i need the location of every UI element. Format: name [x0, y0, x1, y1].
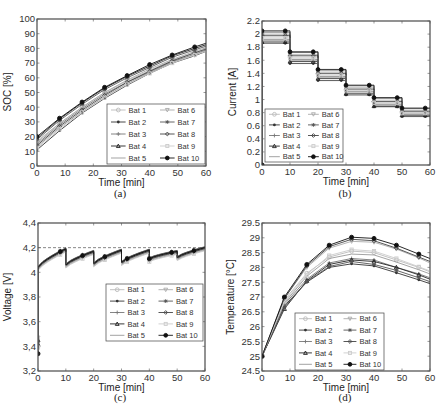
marker-filled-circle-icon [80, 100, 84, 104]
y-tick-label: 4,2 [23, 242, 36, 253]
legend-label: Bat 5 [127, 331, 145, 340]
marker-filled-circle-icon [312, 155, 316, 159]
marker-filled-circle-icon [125, 74, 129, 78]
marker-filled-circle-icon [288, 50, 292, 54]
y-tick-label: 0 [30, 160, 35, 171]
x-tick-label: 0 [259, 372, 264, 383]
marker-filled-circle-icon [316, 68, 320, 72]
x-tick-label: 50 [173, 167, 184, 178]
legend-label: Bat 3 [315, 337, 333, 346]
legend: Bat 1Bat 2Bat 3Bat 4Bat 5Bat 6Bat 7Bat 8… [265, 109, 344, 162]
legend-label: Bat 4 [127, 320, 145, 329]
legend-label: Bat 1 [127, 285, 145, 294]
y-tick-label: 2.2 [247, 15, 260, 26]
y-tick-label: 40 [24, 102, 35, 113]
legend-label: Bat 8 [359, 337, 377, 346]
y-tick-label: 20 [24, 131, 35, 142]
x-tick-label: 10 [60, 167, 71, 178]
marker-filled-circle-icon [193, 45, 197, 49]
legend-label: Bat 5 [283, 152, 301, 161]
y-axis-label: Voltage [V] [2, 273, 13, 322]
marker-dot-icon [304, 329, 307, 332]
marker-filled-circle-icon [344, 83, 348, 87]
y-tick-label: 90 [24, 28, 35, 39]
y-tick-label: 30 [24, 116, 35, 127]
marker-filled-circle-icon [58, 250, 62, 254]
marker-filled-circle-icon [170, 251, 174, 255]
x-tick-label: 40 [144, 372, 155, 383]
marker-filled-circle-icon [164, 333, 168, 337]
x-tick-label: 50 [172, 372, 183, 383]
y-tick-label: 0.2 [247, 146, 260, 157]
legend-label: Bat 4 [283, 142, 301, 151]
legend-label: Bat 8 [322, 131, 340, 140]
y-tick-label: 1.2 [247, 81, 260, 92]
marker-filled-circle-icon [395, 96, 399, 100]
y-tick-label: 100 [19, 13, 35, 24]
chart-a-soc: 01020304050600102030405060708090100Time … [2, 13, 211, 200]
x-tick-label: 20 [88, 167, 99, 178]
y-tick-label: 1.8 [247, 41, 260, 52]
marker-filled-circle-icon [283, 29, 287, 33]
legend-label: Bat 9 [359, 349, 377, 358]
marker-filled-circle-icon [305, 262, 309, 266]
legend-label: Bat 2 [127, 297, 145, 306]
x-tick-label: 0 [34, 167, 39, 178]
y-tick-label: 25.5 [242, 336, 261, 347]
x-tick-label: 60 [201, 167, 212, 178]
marker-filled-circle-icon [417, 252, 421, 256]
marker-star-icon [417, 276, 421, 280]
y-tick-label: 1.6 [247, 55, 260, 66]
y-tick-label: 3,2 [23, 365, 36, 376]
marker-filled-circle-icon [339, 68, 343, 72]
legend: Bat 1Bat 2Bat 3Bat 4Bat 5Bat 6Bat 7Bat 8… [107, 104, 205, 164]
legend-label: Bat 1 [283, 110, 301, 119]
y-tick-label: 80 [24, 43, 35, 54]
legend: Bat 1Bat 2Bat 3Bat 4Bat 5Bat 6Bat 7Bat 8… [106, 284, 203, 341]
y-tick-label: 28.5 [242, 247, 261, 258]
x-tick-label: 60 [425, 372, 436, 383]
x-tick-label: 40 [369, 372, 380, 383]
chart-b-current: 010203040506000.20.40.60.811.21.41.61.82… [227, 15, 435, 200]
y-tick-label: 0.6 [247, 120, 260, 131]
marker-star-icon [372, 262, 376, 266]
y-tick-label: 4,4 [23, 217, 36, 228]
y-tick-label: 0.8 [247, 107, 260, 118]
y-tick-label: 26.5 [242, 306, 261, 317]
y-tick-label: 3,8 [23, 291, 36, 302]
legend-label: Bat 4 [315, 349, 333, 358]
legend-label: Bat 3 [283, 131, 301, 140]
legend-label: Bat 6 [359, 314, 377, 323]
marker-filled-circle-icon [103, 85, 107, 89]
x-axis-label: Time [min] [323, 176, 370, 187]
y-tick-label: 50 [24, 87, 35, 98]
y-tick-label: 10 [24, 146, 35, 157]
marker-filled-circle-icon [394, 243, 398, 247]
y-tick-label: 2 [255, 28, 260, 39]
y-tick-label: 29 [249, 232, 260, 243]
y-axis-label: Temperature [°C] [225, 259, 236, 335]
x-tick-label: 40 [369, 166, 380, 177]
y-tick-label: 1 [255, 94, 260, 105]
marker-filled-circle-icon [148, 63, 152, 67]
legend-label: Bat 5 [315, 360, 333, 369]
y-tick-label: 60 [24, 72, 35, 83]
chart-c-voltage: 01020304050603,23,43,63,844,24,4Time [mi… [2, 217, 210, 404]
marker-filled-circle-icon [423, 106, 427, 110]
marker-filled-circle-icon [81, 254, 85, 258]
y-axis-label: SOC [%] [2, 72, 13, 111]
y-tick-label: 1.4 [247, 68, 260, 79]
figure-canvas: 01020304050600102030405060708090100Time … [0, 0, 446, 418]
x-tick-label: 60 [200, 372, 211, 383]
legend: Bat 1Bat 2Bat 3Bat 4Bat 5Bat 6Bat 7Bat 8… [295, 313, 384, 370]
marker-filled-circle-icon [367, 83, 371, 87]
x-tick-label: 0 [35, 372, 40, 383]
legend-label: Bat 7 [322, 121, 340, 130]
marker-dot-icon [116, 300, 119, 303]
marker-filled-circle-icon [170, 53, 174, 57]
x-tick-label: 50 [397, 166, 408, 177]
marker-star-icon [394, 268, 398, 272]
y-tick-label: 4 [31, 267, 36, 278]
marker-star-icon [165, 120, 169, 124]
y-tick-label: 3,6 [23, 316, 36, 327]
